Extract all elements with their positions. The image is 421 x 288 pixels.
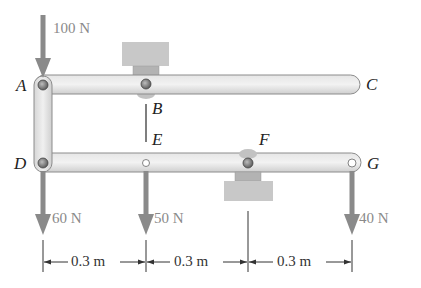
force-arrow-a bbox=[35, 15, 51, 78]
force-arrow-e bbox=[138, 171, 154, 235]
pin-f bbox=[243, 158, 253, 168]
label-force-a: 100 N bbox=[53, 21, 90, 36]
pin-a bbox=[38, 80, 48, 90]
label-point-f: F bbox=[259, 131, 269, 148]
member-defg bbox=[35, 153, 361, 172]
label-force-d: 60 N bbox=[52, 211, 82, 226]
label-dimension-fg: 0.3 m bbox=[276, 254, 312, 269]
force-arrow-d bbox=[35, 171, 51, 235]
pin-e bbox=[143, 160, 150, 167]
frame-diagram bbox=[0, 0, 421, 288]
label-point-e: E bbox=[152, 131, 162, 148]
pin-g bbox=[348, 159, 356, 167]
label-point-a: A bbox=[16, 77, 26, 94]
label-dimension-ef: 0.3 m bbox=[173, 254, 209, 269]
label-force-g: 40 N bbox=[359, 211, 389, 226]
label-dimension-de: 0.3 m bbox=[70, 254, 106, 269]
label-point-g: G bbox=[367, 155, 379, 172]
label-point-b: B bbox=[152, 100, 162, 117]
label-point-d: D bbox=[14, 155, 26, 172]
label-force-e: 50 N bbox=[154, 211, 184, 226]
label-point-c: C bbox=[366, 76, 377, 93]
pin-b bbox=[141, 79, 151, 89]
force-arrow-g bbox=[344, 171, 360, 235]
member-abc bbox=[35, 75, 360, 94]
pin-d bbox=[38, 158, 48, 168]
